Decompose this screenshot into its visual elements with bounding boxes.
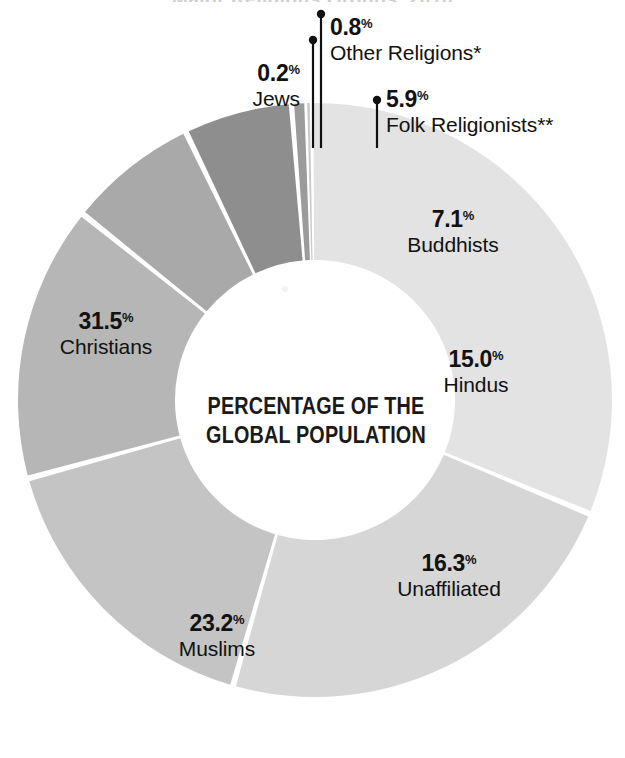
slice-value-hindus: 15.0% (406, 348, 546, 371)
slice-value-christians: 31.5% (22, 310, 190, 333)
slice-name-other-religions: Other Religions* (330, 42, 481, 63)
slice-label-jews: 0.2% Jews (168, 62, 300, 109)
slice-label-hindus: 15.0% Hindus (406, 348, 546, 395)
slice-value-buddhists: 7.1% (378, 208, 528, 231)
slice-name-christians: Christians (22, 336, 190, 357)
center-caption-line-2: GLOBAL POPULATION (195, 421, 438, 450)
slice-name-jews: Jews (168, 88, 300, 109)
leader-dot-other-religions (317, 10, 325, 18)
slice-name-muslims: Muslims (136, 638, 298, 659)
slice-value-jews: 0.2% (168, 62, 300, 85)
slice-value-other-religions: 0.8% (330, 16, 481, 39)
chart-page: Major Religious Groups, 2010 Christians … (0, 0, 625, 758)
slice-label-folk-religionists: 5.9% Folk Religionists** (386, 88, 553, 135)
leader-dot-folk-religionists (373, 96, 381, 104)
slice-label-muslims: 23.2% Muslims (136, 612, 298, 659)
slice-label-other-religions: 0.8% Other Religions* (330, 16, 481, 63)
slice-label-buddhists: 7.1% Buddhists (378, 208, 528, 255)
slice-value-folk-religionists: 5.9% (386, 88, 553, 111)
center-caption: PERCENTAGE OF THE GLOBAL POPULATION (195, 392, 438, 451)
slice-name-hindus: Hindus (406, 374, 546, 395)
slice-value-muslims: 23.2% (136, 612, 298, 635)
leader-dot-jews (309, 36, 317, 44)
slice-name-folk-religionists: Folk Religionists** (386, 114, 553, 135)
center-caption-line-1: PERCENTAGE OF THE (195, 392, 438, 421)
slice-label-unaffiliated: 16.3% Unaffiliated (366, 552, 532, 599)
slice-label-christians: 31.5% Christians (22, 310, 190, 357)
slice-value-unaffiliated: 16.3% (366, 552, 532, 575)
slice-name-unaffiliated: Unaffiliated (366, 578, 532, 599)
slice-name-buddhists: Buddhists (378, 234, 528, 255)
scan-speck (282, 286, 288, 292)
